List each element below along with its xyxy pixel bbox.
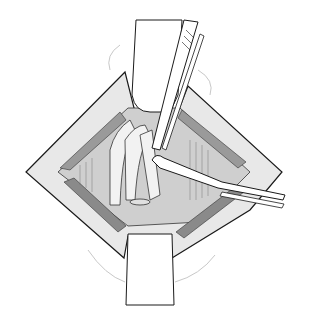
illustration-svg <box>0 0 309 321</box>
exposed-structures <box>110 120 160 205</box>
surgical-illustration <box>0 0 309 321</box>
bottom-retractor <box>126 234 174 305</box>
